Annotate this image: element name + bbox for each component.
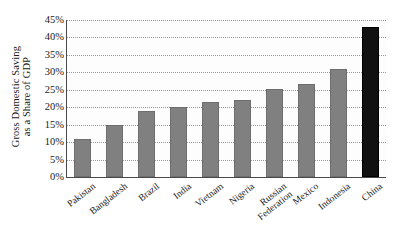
bar-slot [131,20,163,177]
bar-slot [227,20,259,177]
y-axis-title-line-1: Gross Domestic Saving [10,46,21,147]
y-axis-tick-label: 25% [38,85,64,96]
y-axis-tick-label: 20% [38,102,64,113]
bar-india[interactable] [170,107,187,177]
bar-slot [290,20,322,177]
bar-vietnam[interactable] [202,102,219,177]
bar-indonesia[interactable] [330,69,347,177]
x-axis-tick-label-line: China [359,180,384,203]
x-axis-tick-label-line: India [170,180,192,201]
y-axis-tick-label: 10% [38,137,64,148]
bar-slot [163,20,195,177]
bar-nigeria[interactable] [234,100,251,177]
bar-bangladesh[interactable] [106,125,123,177]
y-axis-tick-label: 15% [38,119,64,130]
bar-pakistan[interactable] [74,139,91,177]
bar-slot [67,20,99,177]
bar-slot [195,20,227,177]
y-axis-title-line-2: as a Share of GDP [21,57,32,136]
y-axis-title: Gross Domestic Saving as a Share of GDP [4,14,38,179]
x-axis-tick-label-line: Brazil [136,180,161,203]
y-axis-tick-label: 45% [38,15,64,26]
x-axis-tick-labels: PakistanBangladeshBrazilIndiaVietnamNige… [66,179,385,236]
bars-container [67,20,386,177]
bar-chart-figure: Gross Domestic Saving as a Share of GDP … [0,0,395,236]
bar-china[interactable] [362,27,379,177]
bar-russian-federation[interactable] [266,89,283,177]
bar-brazil[interactable] [138,111,155,177]
y-axis-tick-label: 5% [38,154,64,165]
bar-slot [99,20,131,177]
bar-slot [258,20,290,177]
y-axis-tick-label: 35% [38,50,64,61]
bar-slot [354,20,386,177]
y-axis-tick-labels: 0%5%10%15%20%25%30%35%40%45% [38,14,64,183]
plot-area [66,20,386,178]
bar-mexico[interactable] [298,84,315,178]
bar-slot [322,20,354,177]
y-axis-tick-label: 40% [38,32,64,43]
y-axis-tick-label: 30% [38,67,64,78]
y-axis-tick-label: 0% [38,172,64,183]
